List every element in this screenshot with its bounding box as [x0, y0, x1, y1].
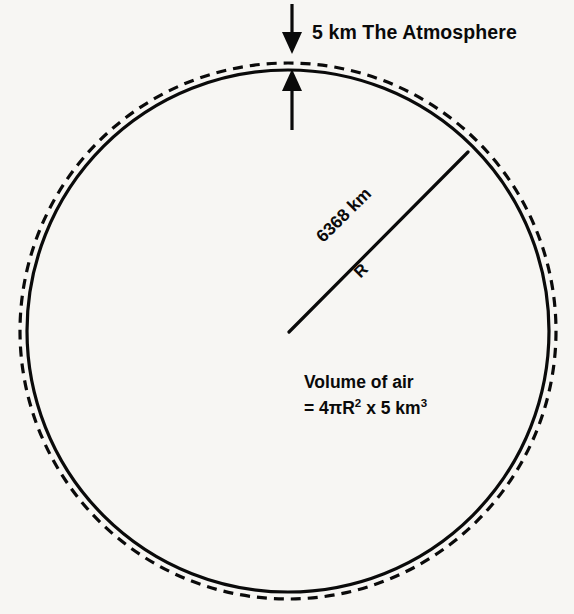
volume-of-air-label: Volume of air — [304, 372, 414, 393]
volume-formula-exponent-cube: 3 — [421, 397, 427, 409]
volume-formula-middle: x 5 km — [361, 398, 420, 418]
arrow-up-icon — [282, 69, 302, 130]
volume-formula-label: = 4πR2 x 5 km3 — [304, 398, 427, 419]
diagram-canvas — [0, 0, 574, 614]
atmosphere-label: 5 km The Atmosphere — [312, 21, 517, 44]
radius-line — [289, 152, 468, 332]
atmosphere-diagram: 5 km The Atmosphere 6368 km R Volume of … — [0, 0, 574, 614]
volume-formula-prefix: = 4πR — [304, 398, 355, 418]
arrow-down-icon — [282, 4, 302, 54]
